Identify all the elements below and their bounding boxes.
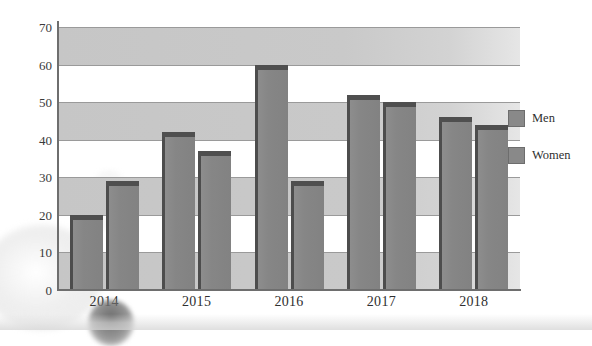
bar-face — [73, 219, 103, 290]
x-axis-tick-label: 2016 — [243, 294, 335, 310]
legend-label-men: Men — [532, 111, 555, 126]
bar-top — [162, 132, 195, 137]
bar-top — [291, 181, 324, 186]
x-axis-tick-label: 2017 — [335, 294, 427, 310]
gridline — [58, 27, 520, 28]
bar-men-2015[interactable] — [162, 132, 195, 290]
scan-artifact-bottom-edge — [0, 314, 592, 330]
bar-face — [201, 155, 231, 290]
bar-face — [258, 69, 288, 290]
grid-band — [58, 27, 520, 65]
legend-swatch-women — [508, 147, 525, 164]
legend: Men Women — [508, 110, 590, 184]
x-axis-tick-label: 2014 — [58, 294, 150, 310]
legend-swatch-men — [508, 110, 525, 127]
y-axis-tick-label: 50 — [12, 96, 52, 109]
bar-women-2017[interactable] — [383, 102, 416, 290]
bar-women-2018[interactable] — [475, 125, 508, 290]
y-axis-tick-label: 60 — [12, 59, 52, 72]
bar-face — [109, 185, 139, 290]
x-axis-tick-label: 2018 — [428, 294, 520, 310]
legend-item-men[interactable]: Men — [508, 110, 590, 127]
gridline — [58, 102, 520, 103]
bar-men-2014[interactable] — [70, 215, 103, 290]
bar-face — [442, 121, 472, 290]
y-axis-line — [57, 21, 59, 291]
y-axis-tick-label: 10 — [12, 246, 52, 259]
plot-area — [58, 27, 520, 290]
bar-women-2014[interactable] — [106, 181, 139, 290]
bar-men-2017[interactable] — [347, 95, 380, 290]
gridline — [58, 65, 520, 66]
bar-face — [165, 136, 195, 290]
y-axis-tick-label: 0 — [12, 284, 52, 297]
bar-top — [439, 117, 472, 122]
x-axis-tick-label: 2015 — [150, 294, 242, 310]
bar-face — [478, 129, 508, 290]
bar-top — [255, 65, 288, 70]
bar-women-2015[interactable] — [198, 151, 231, 290]
y-axis-labels: 010203040506070 — [8, 0, 52, 330]
y-axis-tick-label: 30 — [12, 171, 52, 184]
y-axis-tick-label: 70 — [12, 21, 52, 34]
bar-top — [198, 151, 231, 156]
bar-top — [383, 102, 416, 107]
y-axis-tick-label: 40 — [12, 134, 52, 147]
bar-men-2018[interactable] — [439, 117, 472, 290]
bar-men-2016[interactable] — [255, 65, 288, 290]
bar-top — [475, 125, 508, 130]
bar-women-2016[interactable] — [291, 181, 324, 290]
legend-label-women: Women — [532, 148, 571, 163]
bar-top — [347, 95, 380, 100]
bar-face — [386, 106, 416, 290]
y-axis-tick-label: 20 — [12, 209, 52, 222]
bar-face — [350, 99, 380, 290]
bar-top — [70, 215, 103, 220]
legend-item-women[interactable]: Women — [508, 147, 590, 164]
bar-top — [106, 181, 139, 186]
x-axis-line — [58, 289, 521, 291]
bar-face — [294, 185, 324, 290]
